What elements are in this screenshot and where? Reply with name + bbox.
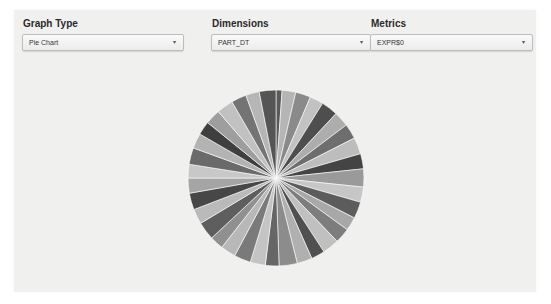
- dimensions-label: Dimensions: [211, 17, 371, 31]
- metrics-control: Metrics EXPR$0 ▾: [370, 17, 533, 51]
- metrics-label: Metrics: [370, 17, 533, 31]
- graph-type-label: Graph Type: [22, 17, 184, 31]
- chevron-down-icon: ▾: [522, 35, 525, 50]
- metrics-select[interactable]: EXPR$0 ▾: [370, 34, 533, 51]
- pie-chart: [186, 88, 366, 268]
- dimensions-value: PART_DT: [218, 35, 249, 50]
- graph-type-select[interactable]: Pie Chart ▾: [22, 34, 184, 51]
- metrics-value: EXPR$0: [377, 35, 404, 50]
- chart-controls: Graph Type Pie Chart ▾ Dimensions PART_D…: [22, 17, 532, 53]
- dimensions-control: Dimensions PART_DT ▾: [211, 17, 371, 51]
- graph-type-value: Pie Chart: [29, 35, 58, 50]
- dimensions-select[interactable]: PART_DT ▾: [211, 34, 371, 51]
- pie-chart-svg: [186, 88, 366, 268]
- chevron-down-icon: ▾: [360, 35, 363, 50]
- graph-type-control: Graph Type Pie Chart ▾: [22, 17, 184, 51]
- chevron-down-icon: ▾: [173, 35, 176, 50]
